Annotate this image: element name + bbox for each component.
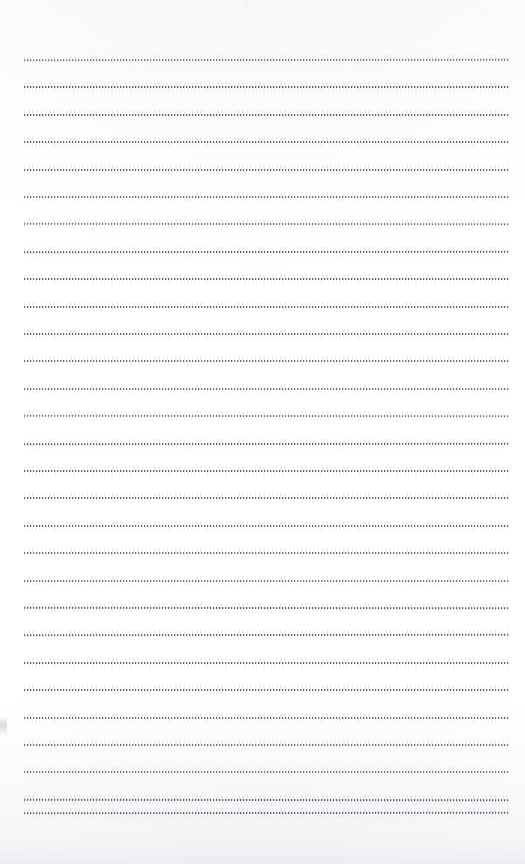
scanned-page (0, 0, 525, 864)
ruled-line (24, 662, 509, 664)
ruled-line (24, 169, 509, 171)
ruled-line (24, 442, 509, 444)
ruled-line (24, 607, 509, 609)
ruled-line (24, 278, 509, 280)
ruled-line (24, 717, 509, 719)
ruled-line (24, 114, 509, 116)
ruled-line (24, 771, 509, 773)
ruled-line (24, 552, 509, 554)
ruled-line (24, 415, 509, 417)
ruled-line (24, 196, 509, 198)
ruled-line (24, 86, 509, 88)
ruled-line (24, 497, 509, 499)
ruled-line (24, 689, 509, 691)
ruled-lines-container (0, 0, 525, 864)
ruled-line (24, 634, 509, 636)
ruled-line (24, 799, 509, 801)
ruled-line (24, 141, 509, 143)
ruled-line (24, 470, 509, 472)
ruled-line (24, 251, 509, 253)
ruled-line (24, 306, 509, 308)
ruled-line (24, 579, 509, 581)
ruled-line (24, 333, 509, 335)
ruled-line (24, 388, 509, 390)
ruled-line (24, 223, 509, 225)
ruled-line (24, 525, 509, 527)
ruled-line (24, 59, 509, 61)
ruled-line (24, 360, 509, 362)
ruled-line (24, 744, 509, 746)
ruled-line (24, 812, 509, 814)
